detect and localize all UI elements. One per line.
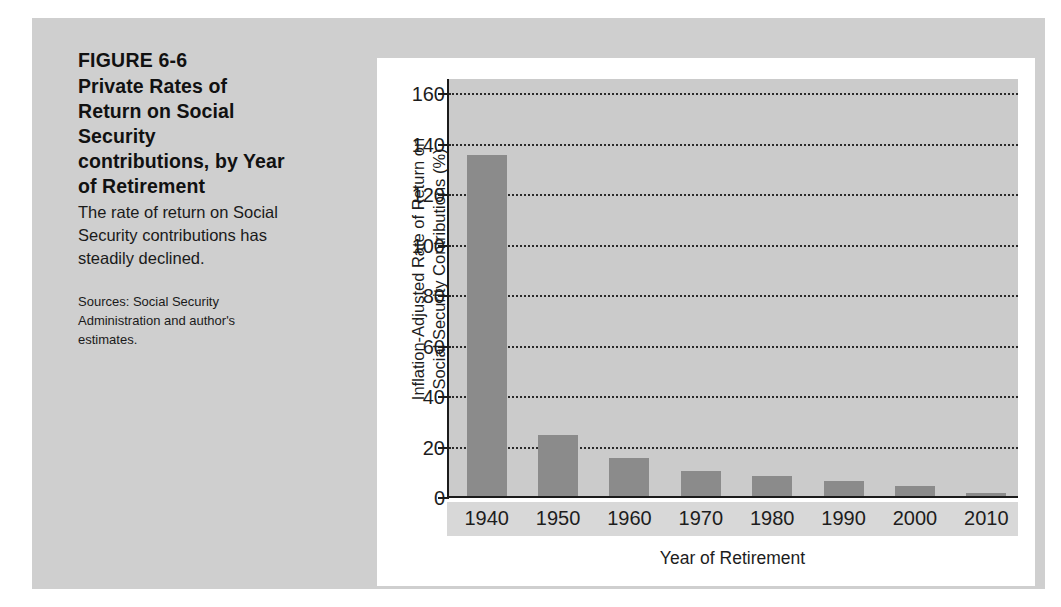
gridline [449,447,1018,449]
y-axis-tick [438,245,449,247]
bar-1990 [824,481,864,496]
y-axis-tick-labels: 020406080100120140160 [399,78,445,498]
y-axis-tick [438,396,449,398]
gridline [449,396,1018,398]
gridline [449,144,1018,146]
y-axis-tick [438,295,449,297]
bar-1950 [538,435,578,496]
x-axis-tick-label: 1950 [536,507,581,530]
x-axis-tick-label: 2000 [893,507,938,530]
x-axis-tick-labels: 19401950196019701980199020002010 [447,502,1018,536]
x-axis-tick-label: 1940 [464,507,509,530]
caption-column: FIGURE 6-6 Private Rates of Return on So… [78,48,323,349]
x-axis-tick-label: 1990 [821,507,866,530]
bar-2000 [895,486,935,496]
y-axis-tick [438,346,449,348]
gridline [449,245,1018,247]
y-axis-line [447,79,449,498]
bar-1960 [609,458,649,496]
bar-1970 [681,471,721,496]
y-axis-tick [438,194,449,196]
x-axis-tick-label: 2010 [964,507,1009,530]
x-axis-title: Year of Retirement [447,548,1018,569]
y-axis-tick [438,144,449,146]
figure-title: Private Rates of Return on Social Securi… [78,74,288,199]
figure-description: The rate of return on Social Security co… [78,201,290,270]
plot-area [447,79,1018,498]
gridline [449,346,1018,348]
gridline [449,194,1018,196]
x-axis-line [447,496,1018,498]
chart-panel: Inflation-Adjusted Rate of Return on Soc… [377,58,1035,586]
y-axis-tick [438,93,449,95]
y-axis-tick [438,497,449,499]
y-axis-tick [438,447,449,449]
bar-1980 [752,476,792,496]
bar-1940 [467,155,507,496]
gridline [449,295,1018,297]
x-axis-tick-label: 1960 [607,507,652,530]
gridline [449,93,1018,95]
figure-sources: Sources: Social Security Administration … [78,292,292,349]
x-axis-tick-label: 1980 [750,507,795,530]
figure-number: FIGURE 6-6 [78,48,323,73]
figure-block: FIGURE 6-6 Private Rates of Return on So… [32,18,1045,589]
bar-2010 [966,493,1006,496]
x-axis-tick-label: 1970 [679,507,724,530]
